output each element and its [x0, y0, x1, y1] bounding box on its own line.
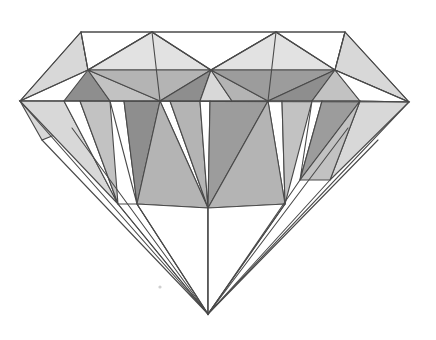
speck-layer	[158, 285, 161, 288]
drawing-canvas	[0, 0, 436, 340]
diamond-illustration	[0, 0, 436, 340]
speck-mid-lower-left	[158, 285, 161, 288]
